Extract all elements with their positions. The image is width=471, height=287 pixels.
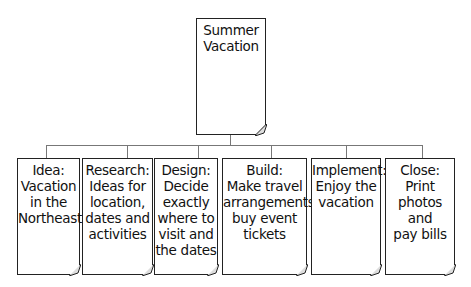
folded-corner-icon — [370, 264, 382, 276]
child-connector — [198, 145, 199, 158]
folded-corner-icon — [207, 264, 219, 276]
child-label: Research: Ideas for location, dates and … — [83, 162, 152, 242]
child-node-idea: Idea: Vacation in the Northeast — [17, 158, 80, 275]
child-connector — [271, 145, 272, 158]
child-label: Idea: Vacation in the Northeast — [18, 162, 79, 226]
child-node-implement: Implement: Enjoy the vacation — [311, 158, 381, 275]
child-connector — [346, 145, 347, 158]
folded-corner-icon — [142, 264, 154, 276]
child-node-research: Research: Ideas for location, dates and … — [82, 158, 153, 275]
child-node-close: Close: Print photos and pay bills — [385, 158, 455, 275]
root-connector — [230, 134, 231, 145]
root-label: Summer Vacation — [197, 22, 265, 54]
child-label: Close: Print photos and pay bills — [386, 162, 454, 242]
child-connector — [46, 145, 47, 158]
child-label: Design: Decide exactly where to visit an… — [155, 162, 217, 258]
child-label: Implement: Enjoy the vacation — [312, 162, 380, 210]
horizontal-connector — [46, 145, 423, 146]
child-connector — [422, 145, 423, 158]
folded-corner-icon — [69, 264, 81, 276]
child-label: Build: Make travel arrangements, buy eve… — [223, 162, 306, 242]
folded-corner-icon — [444, 264, 456, 276]
root-node: Summer Vacation — [196, 18, 266, 135]
child-node-design: Design: Decide exactly where to visit an… — [154, 158, 218, 275]
folded-corner-icon — [255, 124, 267, 136]
child-node-build: Build: Make travel arrangements, buy eve… — [222, 158, 307, 275]
folded-corner-icon — [296, 264, 308, 276]
child-connector — [127, 145, 128, 158]
